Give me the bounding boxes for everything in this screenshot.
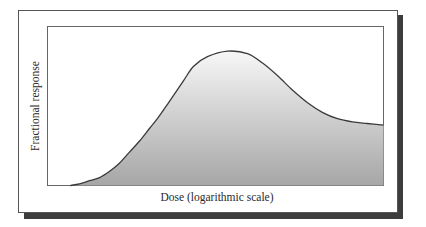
frame-shadow-bottom [24, 213, 403, 219]
frame-shadow-right [398, 15, 403, 219]
chart-figure: Fractional response Dose (logarithmic sc… [0, 0, 426, 227]
x-axis-label: Dose (logarithmic scale) [160, 191, 273, 204]
y-axis-label: Fractional response [29, 61, 42, 151]
